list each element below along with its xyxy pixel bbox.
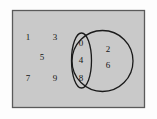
element-outside-2: 3 — [53, 32, 58, 42]
element-outside-5: 9 — [53, 73, 58, 83]
element-ellipse-1: 0 — [79, 38, 84, 48]
venn-diagram-canvas: 1 3 5 7 9 0 4 8 2 6 — [0, 0, 157, 119]
ellipse-elements-group: 0 4 8 — [79, 38, 84, 83]
element-outside-3: 5 — [40, 52, 45, 62]
element-outside-4: 7 — [26, 73, 31, 83]
element-ellipse-3: 8 — [79, 73, 84, 83]
element-outside-1: 1 — [26, 32, 31, 42]
element-circle-2: 6 — [106, 60, 111, 70]
element-circle-1: 2 — [106, 44, 111, 54]
venn-diagram-figure: 1 3 5 7 9 0 4 8 2 6 — [0, 0, 157, 119]
element-ellipse-2: 4 — [79, 55, 84, 65]
